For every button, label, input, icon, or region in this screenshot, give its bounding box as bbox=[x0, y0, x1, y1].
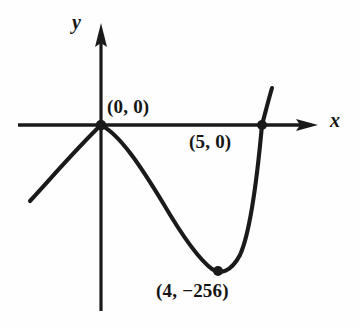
x-axis-label: x bbox=[330, 110, 340, 130]
coordinate-plot bbox=[0, 0, 361, 328]
point-marker-root5 bbox=[257, 120, 267, 130]
curve-path bbox=[30, 88, 272, 272]
graph-figure: (0, 0) (5, 0) (4, −256) y x bbox=[0, 0, 361, 328]
y-axis-label: y bbox=[72, 12, 81, 32]
point-label-minimum: (4, −256) bbox=[156, 281, 229, 300]
point-marker-origin bbox=[96, 120, 106, 130]
point-label-origin: (0, 0) bbox=[107, 97, 149, 116]
point-marker-minimum bbox=[213, 266, 223, 276]
point-label-root5: (5, 0) bbox=[189, 132, 231, 151]
